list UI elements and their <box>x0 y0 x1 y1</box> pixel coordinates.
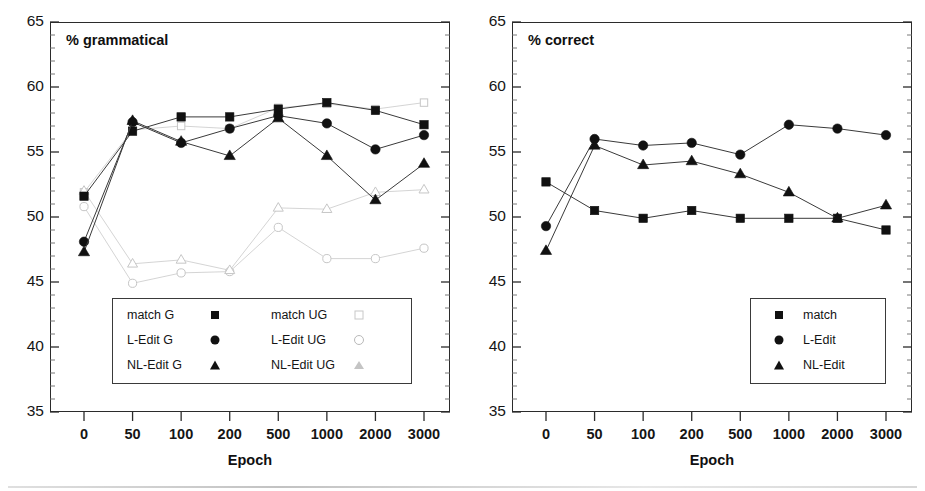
series-l-edit-ug <box>80 203 428 288</box>
legend-item: NL-Edit UG <box>271 357 411 373</box>
triangle-open-marker-icon <box>273 203 283 212</box>
circle-open-marker-icon <box>128 279 136 287</box>
legend-item: NL-Edit G <box>127 357 267 373</box>
figure-two-panel-line-charts: % grammatical Epoch match GL-Edit GNL-Ed… <box>0 0 925 491</box>
circle-open-marker-icon <box>274 223 282 231</box>
y-axis-tick-label: 50 <box>468 207 506 225</box>
legend-label: L-Edit UG <box>271 333 349 347</box>
y-axis-tick-label: 45 <box>6 272 44 290</box>
x-axis-tick-label: 3000 <box>856 426 916 442</box>
circle-open-marker-icon <box>177 269 185 277</box>
circle-filled-marker-icon <box>419 130 428 139</box>
square-open-marker-icon <box>420 99 427 106</box>
x-axis-title-right: Epoch <box>632 452 792 468</box>
circle-open-marker-icon <box>371 255 379 263</box>
circle-filled-marker-icon <box>79 237 88 246</box>
plot-canvas-left <box>0 0 462 491</box>
circle-filled-marker-icon <box>769 333 789 347</box>
square-open-marker-icon <box>349 308 369 322</box>
panel-title-right: % correct <box>528 32 594 48</box>
circle-filled-marker-icon <box>322 119 331 128</box>
triangle-open-marker-icon <box>349 358 369 372</box>
square-filled-marker-icon <box>80 192 88 200</box>
square-filled-marker-icon <box>542 178 550 186</box>
circle-filled-marker-icon <box>205 333 225 347</box>
legend-item: match <box>769 307 879 323</box>
triangle-filled-marker-icon <box>880 199 891 209</box>
square-filled-marker-icon <box>769 308 789 322</box>
legend-right: matchL-EditNL-Edit <box>750 298 886 384</box>
series-line <box>546 146 886 251</box>
circle-open-marker-icon <box>420 244 428 252</box>
square-filled-marker-icon <box>420 121 428 129</box>
series-nl-edit <box>540 140 891 255</box>
x-axis-tick-label: 3000 <box>394 426 454 442</box>
triangle-filled-marker-icon <box>321 150 332 160</box>
chart-panel-grammatical: % grammatical Epoch match GL-Edit GNL-Ed… <box>0 0 462 491</box>
legend-left: match GL-Edit GNL-Edit Gmatch UGL-Edit U… <box>112 298 412 384</box>
square-filled-marker-icon <box>177 113 185 121</box>
square-filled-marker-icon <box>688 206 696 214</box>
circle-filled-marker-icon <box>638 141 647 150</box>
series-match <box>542 178 890 235</box>
legend-label: NL-Edit UG <box>271 358 349 372</box>
legend-label: match G <box>127 308 205 322</box>
circle-open-marker-icon <box>349 333 369 347</box>
y-axis-tick-label: 55 <box>468 142 506 160</box>
square-filled-marker-icon <box>736 214 744 222</box>
legend-label: NL-Edit <box>803 358 845 372</box>
circle-filled-marker-icon <box>687 138 696 147</box>
square-filled-marker-icon <box>590 206 598 214</box>
y-axis-tick-label: 35 <box>468 402 506 420</box>
circle-open-marker-icon <box>80 203 88 211</box>
y-axis-tick-label: 50 <box>6 207 44 225</box>
legend-item: NL-Edit <box>769 357 879 373</box>
series-line <box>84 118 424 252</box>
circle-filled-marker-icon <box>225 124 234 133</box>
scan-artifact-line <box>8 486 917 488</box>
triangle-filled-marker-icon <box>686 155 697 165</box>
square-filled-marker-icon <box>371 106 379 114</box>
legend-label: match UG <box>271 308 349 322</box>
series-line <box>84 207 424 284</box>
circle-filled-marker-icon <box>833 124 842 133</box>
y-axis-tick-label: 35 <box>6 402 44 420</box>
y-axis-tick-label: 40 <box>468 337 506 355</box>
square-filled-marker-icon <box>226 113 234 121</box>
square-open-marker-icon <box>177 122 184 129</box>
chart-panel-correct: % correct Epoch matchL-EditNL-Edit 35404… <box>462 0 924 491</box>
circle-filled-marker-icon <box>736 150 745 159</box>
legend-label: L-Edit G <box>127 333 205 347</box>
y-axis-tick-label: 65 <box>6 12 44 30</box>
square-filled-marker-icon <box>882 226 890 234</box>
triangle-open-marker-icon <box>176 255 186 264</box>
triangle-filled-marker-icon <box>78 246 89 256</box>
y-axis-tick-label: 45 <box>468 272 506 290</box>
circle-filled-marker-icon <box>371 145 380 154</box>
legend-item: L-Edit <box>769 332 879 348</box>
panel-title-left: % grammatical <box>66 32 168 48</box>
legend-item: match G <box>127 307 267 323</box>
triangle-filled-marker-icon <box>769 358 789 372</box>
square-filled-marker-icon <box>639 214 647 222</box>
y-axis-tick-label: 65 <box>468 12 506 30</box>
legend-label: match <box>803 308 837 322</box>
legend-label: L-Edit <box>803 333 836 347</box>
x-axis-title-left: Epoch <box>170 452 330 468</box>
circle-filled-marker-icon <box>541 221 550 230</box>
triangle-filled-marker-icon <box>205 358 225 372</box>
circle-filled-marker-icon <box>784 120 793 129</box>
circle-filled-marker-icon <box>881 130 890 139</box>
triangle-open-marker-icon <box>419 184 429 193</box>
square-filled-marker-icon <box>785 214 793 222</box>
square-filled-marker-icon <box>205 308 225 322</box>
triangle-open-marker-icon <box>128 258 138 267</box>
circle-open-marker-icon <box>323 255 331 263</box>
y-axis-tick-label: 40 <box>6 337 44 355</box>
triangle-filled-marker-icon <box>540 245 551 255</box>
y-axis-tick-label: 60 <box>468 77 506 95</box>
legend-item: L-Edit UG <box>271 332 411 348</box>
triangle-filled-marker-icon <box>418 158 429 168</box>
plot-canvas-right <box>462 0 924 491</box>
square-filled-marker-icon <box>323 98 331 106</box>
